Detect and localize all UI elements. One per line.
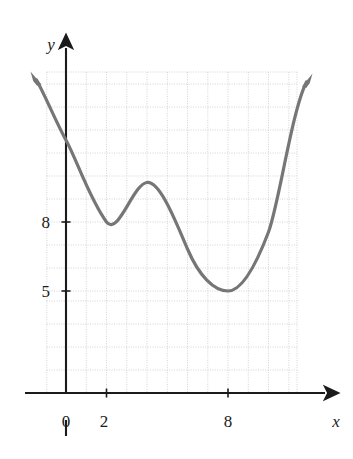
y-axis-label: y	[45, 35, 55, 54]
curve-arrow-right	[302, 74, 313, 89]
grid	[47, 72, 297, 393]
figure-container: 0 2 8 8 5 y x	[0, 0, 353, 459]
y-tick-label-8: 8	[42, 213, 51, 232]
data-curve	[37, 80, 307, 291]
graph-plot: 0 2 8 8 5 y x	[0, 0, 353, 459]
x-tick-label-0: 0	[62, 412, 71, 431]
x-axis-label: x	[331, 412, 340, 431]
y-tick-label-5: 5	[42, 282, 51, 301]
x-tick-label-2: 2	[100, 412, 109, 431]
x-tick-label-8: 8	[224, 412, 233, 431]
curve-arrow-left	[31, 72, 42, 86]
